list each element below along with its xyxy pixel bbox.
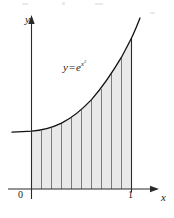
x-axis-arrowhead <box>150 186 159 192</box>
plot-canvas <box>0 0 174 218</box>
curve-label-exp-pow: 2 <box>84 59 86 64</box>
exponential-area-figure: y=ex2 y x 0 1 <box>0 0 174 218</box>
y-axis-label: y <box>25 14 30 25</box>
curve-label-equals: = <box>68 61 76 73</box>
curve-label-exponent: x2 <box>81 60 86 67</box>
x-tick-label-one: 1 <box>128 190 133 200</box>
curve-equation-label: y=ex2 <box>63 62 86 73</box>
x-axis-label: x <box>161 192 166 203</box>
origin-tick-label: 0 <box>18 190 23 200</box>
